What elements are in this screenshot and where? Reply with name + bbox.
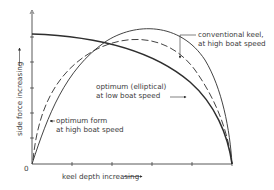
curve-conventional-high-speed: [33, 39, 232, 164]
annotation-optimum-high-speed: optimum form at high boat speed: [50, 116, 124, 134]
label-conventional-line1: conventional keel,: [198, 30, 264, 39]
label-highspeed-line2: at high boat speed: [56, 125, 124, 134]
label-conventional-line2: at high boat speed: [198, 39, 266, 48]
label-highspeed-line1: optimum form: [56, 116, 107, 125]
label-elliptical-line1: optimum (elliptical): [96, 82, 167, 91]
y-axis-label: side force increasing: [15, 62, 24, 136]
x-axis: [32, 162, 232, 166]
annotation-elliptical-low-speed: optimum (elliptical) at low boat speed: [96, 82, 186, 100]
y-axis-title: side force increasing: [15, 48, 24, 136]
annotation-conventional-keel: conventional keel, at high boat speed: [180, 30, 266, 58]
keel-side-force-diagram: conventional keel, at high boat speed op…: [0, 0, 274, 190]
x-axis-title: keel depth increasing: [62, 172, 142, 181]
diagram-canvas: conventional keel, at high boat speed op…: [0, 0, 274, 190]
y-axis: [30, 10, 34, 164]
label-elliptical-line2: at low boat speed: [96, 91, 160, 100]
origin-label: 0: [24, 164, 29, 173]
